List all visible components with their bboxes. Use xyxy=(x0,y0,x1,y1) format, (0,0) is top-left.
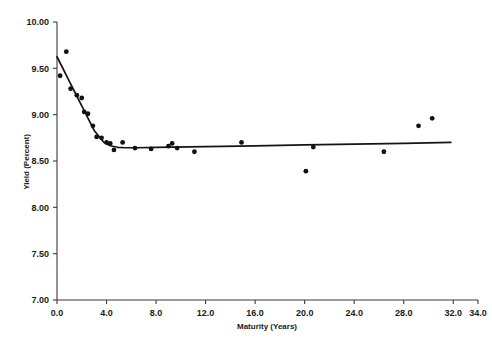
y-tick-label: 10.00 xyxy=(26,17,49,27)
x-tick-label: 8.0 xyxy=(150,308,163,318)
data-point xyxy=(86,111,91,116)
data-point xyxy=(175,146,180,151)
x-tick-label: 34.0 xyxy=(469,308,487,318)
data-point xyxy=(416,123,421,128)
data-point xyxy=(381,149,386,154)
yield-curve-chart: 7.007.508.008.509.009.5010.00 0.04.08.01… xyxy=(0,0,492,350)
data-point xyxy=(303,169,308,174)
y-tick-label: 8.00 xyxy=(31,203,49,213)
data-point xyxy=(133,146,138,151)
x-tick-label: 28.0 xyxy=(395,308,413,318)
y-tick-label: 7.00 xyxy=(31,295,49,305)
data-point xyxy=(239,140,244,145)
x-tick-label: 24.0 xyxy=(345,308,363,318)
y-axis-label: Yield (Percent) xyxy=(22,134,31,190)
data-point xyxy=(74,93,79,98)
data-point xyxy=(192,149,197,154)
data-point xyxy=(58,73,63,78)
data-point xyxy=(120,140,125,145)
x-tick-label: 16.0 xyxy=(246,308,264,318)
data-point xyxy=(108,141,113,146)
data-point xyxy=(311,145,316,150)
data-point xyxy=(68,86,73,91)
x-tick-label: 20.0 xyxy=(296,308,314,318)
x-tick-label: 0.0 xyxy=(51,308,64,318)
data-point xyxy=(64,49,69,54)
chart-background xyxy=(0,0,492,350)
y-tick-label: 9.00 xyxy=(31,110,49,120)
data-point xyxy=(149,147,154,152)
data-point xyxy=(112,147,117,152)
data-point xyxy=(94,135,99,140)
x-axis-label: Maturity (Years) xyxy=(237,322,297,331)
data-point xyxy=(99,135,104,140)
chart-container: 7.007.508.008.509.009.5010.00 0.04.08.01… xyxy=(0,0,492,350)
data-point xyxy=(170,141,175,146)
y-tick-label: 9.50 xyxy=(31,64,49,74)
data-point xyxy=(430,116,435,121)
x-tick-label: 32.0 xyxy=(444,308,462,318)
x-tick-label: 4.0 xyxy=(100,308,113,318)
y-tick-label: 7.50 xyxy=(31,249,49,259)
data-point xyxy=(91,123,96,128)
y-tick-label: 8.50 xyxy=(31,156,49,166)
data-point xyxy=(79,96,84,101)
x-tick-label: 12.0 xyxy=(197,308,215,318)
